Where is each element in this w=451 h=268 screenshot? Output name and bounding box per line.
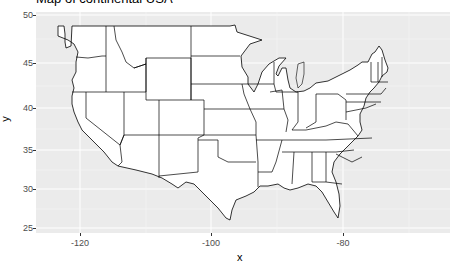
plot-panel (36, 12, 450, 233)
x-tick-neg80: -80 (323, 238, 363, 248)
y-tick-25: 25 (0, 223, 33, 233)
y-axis-label: y (0, 116, 11, 122)
x-tick-mark (343, 233, 344, 236)
x-tick-mark (80, 233, 81, 236)
map-svg (36, 12, 450, 233)
chart-title: Map of continental USA (36, 0, 173, 6)
y-tick-35: 35 (0, 145, 33, 155)
y-tick-50: 50 (0, 10, 33, 20)
y-tick-40: 40 (0, 103, 33, 113)
x-axis-label: x (237, 251, 243, 263)
x-tick-neg120: -120 (60, 238, 100, 248)
lake-michigan (296, 62, 304, 88)
y-tick-30: 30 (0, 184, 33, 194)
x-tick-neg100: -100 (191, 238, 231, 248)
x-tick-mark (211, 233, 212, 236)
y-tick-45: 45 (0, 58, 33, 68)
